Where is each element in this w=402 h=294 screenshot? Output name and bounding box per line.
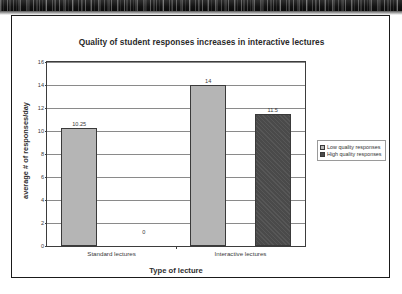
y-axis-tick-mark — [45, 177, 47, 178]
chart-legend: Low quality responsesHigh quality respon… — [317, 140, 386, 161]
bar-value-label: 0 — [142, 229, 145, 235]
y-axis-tick-label: 0 — [41, 243, 44, 249]
gridline — [47, 108, 305, 109]
bar: 10.25 — [61, 128, 97, 246]
y-axis-tick-mark — [45, 85, 47, 86]
y-axis-tick-mark — [45, 108, 47, 109]
y-axis-tick-label: 8 — [41, 151, 44, 157]
bar-value-label: 10.25 — [72, 121, 86, 127]
bar-value-label: 11.5 — [267, 107, 277, 113]
y-axis-tick-mark — [45, 200, 47, 201]
y-axis-title: average # of responses/day — [21, 76, 30, 226]
legend-item-label: Low quality responses — [327, 144, 380, 150]
bar-value-label: 14 — [205, 78, 211, 84]
y-axis-tick-mark — [45, 131, 47, 132]
y-axis-tick-label: 2 — [41, 220, 44, 226]
y-axis-tick-mark — [45, 154, 47, 155]
x-axis-title: Type of lecture — [46, 266, 306, 275]
gridline — [47, 62, 305, 63]
y-axis-tick-label: 4 — [41, 197, 44, 203]
gridline — [47, 85, 305, 86]
legend-item: Low quality responses — [320, 144, 382, 150]
chart-figure-frame: Quality of student responses increases i… — [11, 15, 390, 278]
x-axis-category-tick — [176, 246, 177, 249]
legend-item-label: High quality responses — [327, 151, 382, 157]
y-axis-tick-mark — [45, 223, 47, 224]
y-axis-tick-label: 12 — [38, 105, 44, 111]
light-gray-swatch-icon — [320, 145, 325, 150]
x-axis-tick-label: Interactive lectures — [215, 250, 267, 257]
y-axis-tick-mark — [45, 62, 47, 63]
y-axis-tick-label: 10 — [38, 128, 44, 134]
y-axis-tick-label: 16 — [38, 59, 44, 65]
bar: 14 — [190, 85, 226, 246]
scan-artifact-strip — [0, 0, 402, 11]
legend-item: High quality responses — [320, 151, 382, 157]
plot-area: 161412108642010.250Standard lectures1411… — [46, 61, 306, 247]
dark-gray-swatch-icon — [320, 152, 325, 157]
y-axis-tick-label: 6 — [41, 174, 44, 180]
y-axis-tick-mark — [45, 246, 47, 247]
chart-title: Quality of student responses increases i… — [12, 37, 391, 47]
y-axis-tick-label: 14 — [38, 82, 44, 88]
x-axis-tick-label: Standard lectures — [87, 250, 136, 257]
bar: 11.5 — [255, 114, 291, 246]
